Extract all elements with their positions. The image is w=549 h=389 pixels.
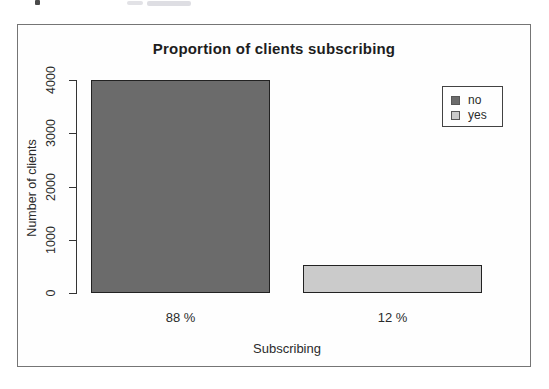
legend-swatch-yes: [451, 111, 460, 120]
bar-percent-label-yes: 12 %: [378, 310, 408, 325]
chart-title: Proportion of clients subscribing: [153, 40, 395, 57]
bar-percent-label-no: 88 %: [166, 310, 196, 325]
legend: noyes: [442, 86, 503, 127]
y-tick-mark: [69, 187, 76, 188]
y-tick-label: 4000: [44, 66, 58, 94]
scanned-figure-page: Proportion of clients subscribing Number…: [0, 0, 549, 389]
y-axis-title: Number of clients: [25, 139, 39, 236]
legend-items: noyes: [451, 93, 502, 122]
legend-item-yes: yes: [451, 108, 502, 122]
cropped-text-fragment: [35, 0, 40, 5]
y-tick-mark: [69, 80, 76, 81]
y-tick-mark: [69, 133, 76, 134]
legend-swatch-no: [451, 96, 460, 105]
y-tick-label: 2000: [44, 173, 58, 201]
y-tick-label: 1000: [44, 226, 58, 254]
cropped-text-fragment: [127, 1, 143, 5]
y-axis-line: [76, 80, 77, 294]
chart-frame: Proportion of clients subscribing Number…: [17, 24, 531, 367]
y-tick-label: 3000: [44, 119, 58, 147]
bar-yes: [303, 265, 482, 293]
y-tick-label: 0: [44, 290, 58, 297]
legend-label-yes: yes: [468, 109, 487, 121]
y-tick-mark: [69, 240, 76, 241]
y-tick-mark: [69, 293, 76, 294]
cropped-text-fragment: [147, 1, 191, 6]
legend-item-no: no: [451, 93, 502, 107]
legend-label-no: no: [468, 94, 481, 106]
x-axis-title: Subscribing: [253, 341, 321, 356]
bar-no: [91, 80, 270, 293]
